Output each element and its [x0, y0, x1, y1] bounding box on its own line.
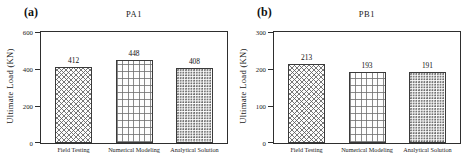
bar-field-testing [288, 64, 325, 143]
y-tick-label: 200 [256, 66, 266, 73]
panel-label-b: (b) [257, 5, 272, 20]
x-category-label: Numerical Modeling [108, 146, 160, 153]
bar-numerical-modeling [349, 72, 386, 143]
y-axis-label: Ultimate Load (KN) [238, 48, 248, 124]
y-tick-mark [268, 142, 273, 143]
y-tick-mark [268, 69, 273, 70]
chart-title-pa1: PA1 [40, 9, 228, 19]
y-tick-mark [35, 106, 40, 107]
y-tick-label: 0 [30, 140, 33, 147]
chart-panel-a: (a) PA1 Ultimate Load (KN) 0200400600412… [0, 0, 232, 164]
bar-value-label: 412 [68, 56, 79, 65]
chart-title-pb1: PB1 [273, 9, 461, 19]
bar-analytical-solution [409, 72, 446, 143]
bar-value-label: 408 [189, 57, 200, 66]
bar-value-label: 448 [128, 49, 139, 58]
x-category-label: Field Testing [290, 146, 322, 153]
y-tick-mark [35, 142, 40, 143]
x-category-label: Numerical Modeling [341, 146, 393, 153]
y-tick-label: 200 [23, 103, 33, 110]
two-panel-bar-figure: (a) PA1 Ultimate Load (KN) 0200400600412… [0, 0, 465, 164]
x-category-label: Field Testing [57, 146, 89, 153]
x-category-label: Analytical Solution [403, 146, 451, 153]
y-tick-mark [268, 32, 273, 33]
x-category-label: Analytical Solution [170, 146, 218, 153]
y-tick-label: 300 [256, 29, 266, 36]
y-tick-mark [268, 106, 273, 107]
bar-analytical-solution [176, 68, 213, 143]
y-tick-label: 400 [23, 66, 33, 73]
bar-value-label: 213 [301, 53, 312, 62]
y-tick-label: 100 [256, 103, 266, 110]
y-tick-mark [35, 69, 40, 70]
bar-value-label: 193 [361, 61, 372, 70]
y-tick-label: 600 [23, 29, 33, 36]
y-axis-label: Ultimate Load (KN) [5, 48, 15, 124]
bar-value-label: 191 [422, 61, 433, 70]
y-tick-mark [35, 32, 40, 33]
bar-numerical-modeling [116, 60, 153, 143]
plot-area: 0200400600412Field Testing448Numerical M… [40, 31, 228, 144]
y-tick-label: 0 [263, 140, 266, 147]
bar-field-testing [55, 67, 92, 143]
panel-label-a: (a) [24, 5, 38, 20]
plot-area: 0100200300213Field Testing193Numerical M… [273, 31, 461, 144]
chart-panel-b: (b) PB1 Ultimate Load (KN) 0100200300213… [233, 0, 465, 164]
